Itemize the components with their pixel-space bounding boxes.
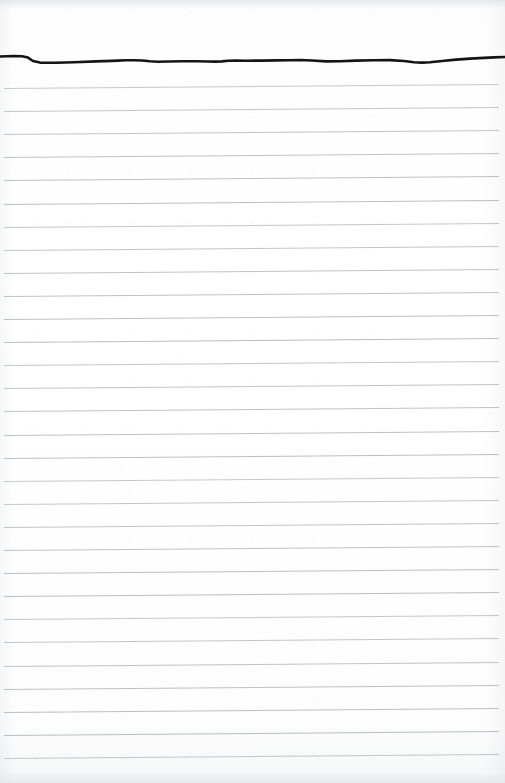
rule-line [4, 500, 499, 505]
rule-line [4, 477, 499, 482]
rule-line [4, 246, 499, 251]
rule-line [4, 685, 499, 690]
rule-line [4, 130, 499, 135]
rule-line [4, 638, 499, 643]
rule-line [4, 731, 499, 736]
rule-line [4, 407, 499, 412]
bottom-scan-edge-shadow [0, 771, 505, 783]
rule-line [4, 754, 499, 759]
rule-line [4, 592, 499, 597]
rule-line [4, 153, 499, 158]
rule-line [4, 523, 499, 528]
rule-line [4, 454, 499, 459]
rule-line [4, 662, 499, 667]
rule-line [4, 292, 499, 297]
rule-line [4, 569, 499, 574]
ruled-lines-layer [0, 0, 505, 783]
rule-line [4, 361, 499, 366]
rule-line [4, 615, 499, 620]
rule-line [4, 200, 499, 205]
rule-line [4, 269, 499, 274]
rule-line [4, 84, 499, 89]
rule-line [4, 431, 499, 436]
rule-line [4, 223, 499, 228]
rule-line [4, 384, 499, 389]
rule-line [4, 708, 499, 713]
rule-line [4, 338, 499, 343]
rule-line [4, 176, 499, 181]
rule-line [4, 315, 499, 320]
rule-line [4, 107, 499, 112]
scanned-page [0, 0, 505, 783]
rule-line [4, 546, 499, 551]
